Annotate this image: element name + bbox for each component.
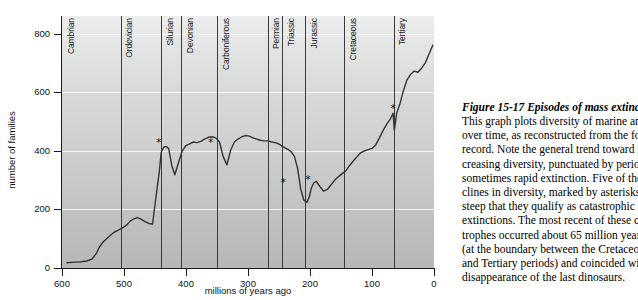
y-tick-label: 0	[0, 262, 50, 273]
extinction-asterisk-late-Devonian: *	[208, 137, 214, 148]
y-tick-mark	[54, 268, 61, 269]
x-tick-label: 600	[54, 278, 70, 289]
x-tick-mark	[310, 269, 311, 276]
x-tick-label: 500	[116, 278, 132, 289]
period-label-silurian: Silurian	[165, 18, 175, 46]
y-tick-label: 800	[0, 28, 50, 39]
period-label-text: Jurassic	[309, 18, 319, 48]
caption-line: extinctions. The most recent of these ca…	[462, 213, 638, 227]
extinction-asterisk-end-Triassic: *	[305, 173, 311, 184]
x-tick-mark	[124, 269, 125, 276]
y-axis-line	[61, 16, 62, 269]
x-tick-label: 400	[178, 278, 194, 289]
figure-container: ***** CambrianOrdovicianSilurianDevonian…	[0, 0, 638, 300]
figure-caption: Figure 15-17 Episodes of mass extinction…	[462, 100, 638, 300]
period-label-devonian: Devonian	[185, 18, 195, 53]
caption-line: record. Note the general trend toward in…	[462, 142, 638, 156]
period-label-cambrian: Cambrian	[66, 18, 76, 54]
caption-line: This graph plots diversity of marine ani…	[462, 114, 638, 128]
x-tick-mark	[248, 269, 249, 276]
caption-line: (at the boundary between the Cretaceous	[462, 242, 638, 256]
extinction-asterisk-end-Ordovician: *	[156, 137, 162, 148]
caption-line: clines in diversity, marked by asterisks…	[462, 185, 638, 199]
x-tick-label: 0	[431, 278, 436, 289]
caption-line: creasing diversity, punctuated by period…	[462, 157, 638, 171]
y-tick-mark	[54, 209, 61, 210]
period-label-text: Carboniferous	[221, 18, 231, 70]
x-tick-label: 200	[302, 278, 318, 289]
y-tick-mark	[54, 151, 61, 152]
period-label-text: Tertiary	[397, 18, 407, 45]
y-tick-mark	[54, 92, 61, 93]
diversity-curve	[62, 16, 434, 268]
period-label-text: Triassic	[286, 18, 296, 46]
period-label-text: Cambrian	[66, 18, 76, 54]
period-label-ordovician: Ordovician	[124, 18, 134, 58]
caption-body: This graph plots diversity of marine ani…	[462, 114, 638, 284]
y-tick-label: 600	[0, 86, 50, 97]
x-tick-mark	[434, 269, 435, 276]
plot-area: ***** CambrianOrdovicianSilurianDevonian…	[62, 16, 434, 268]
period-label-text: Permian	[271, 18, 281, 49]
caption-line: and Tertiary periods) and coincided with…	[462, 256, 638, 270]
y-axis-label: number of families	[6, 111, 17, 189]
extinction-asterisk-end-Cretaceous: *	[390, 103, 396, 114]
caption-line: sometimes rapid extinction. Five of the …	[462, 171, 638, 185]
y-tick-mark	[54, 34, 61, 35]
caption-line: over time, as reconstructed from the fos…	[462, 128, 638, 142]
extinction-asterisk-end-Permian: *	[281, 176, 287, 187]
period-label-jurassic: Jurassic	[309, 18, 319, 48]
caption-title: Figure 15-17 Episodes of mass extinction…	[462, 100, 638, 114]
x-tick-mark	[186, 269, 187, 276]
caption-line: disappearance of the last dinosaurs.	[462, 270, 638, 284]
period-label-tertiary: Tertiary	[397, 18, 407, 45]
x-tick-mark	[62, 269, 63, 276]
period-label-text: Devonian	[185, 18, 195, 53]
period-label-text: Cretaceous	[348, 18, 358, 60]
x-tick-label: 100	[364, 278, 380, 289]
x-axis-label: millions of years ago	[205, 285, 292, 296]
period-label-text: Silurian	[165, 18, 175, 46]
chart-region: ***** CambrianOrdovicianSilurianDevonian…	[0, 0, 450, 300]
y-tick-label: 200	[0, 203, 50, 214]
period-label-carboniferous: Carboniferous	[221, 18, 231, 70]
caption-line: trophes occurred about 65 million years …	[462, 228, 638, 242]
x-tick-mark	[372, 269, 373, 276]
period-label-text: Ordovician	[124, 18, 134, 58]
period-label-permian: Permian	[271, 18, 281, 49]
caption-line: steep that they qualify as catastrophic …	[462, 199, 638, 213]
period-label-cretaceous: Cretaceous	[348, 18, 358, 60]
period-label-triassic: Triassic	[286, 18, 296, 46]
